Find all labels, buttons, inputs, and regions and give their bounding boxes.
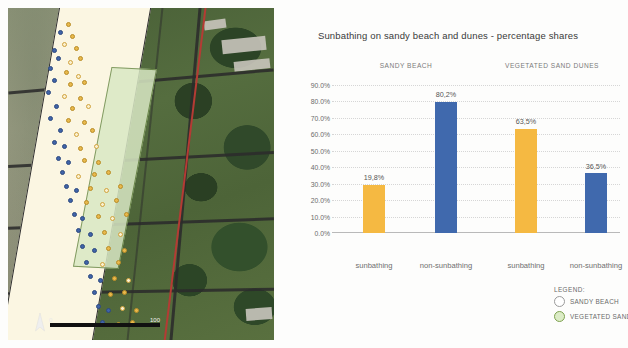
y-tick-label: 40.0%	[311, 164, 330, 171]
bar-sandy-beach-sunbathing[interactable]	[363, 185, 385, 233]
x-tick-label: non-sunbathing	[406, 261, 486, 270]
y-tick-label: 30.0%	[311, 180, 330, 187]
legend-title: LEGEND:	[554, 286, 628, 293]
map-scale-end-label: 100	[150, 317, 160, 323]
legend-item-vegetated-sand-dunes: VEGETATED SAND DUNES	[554, 311, 628, 322]
y-tick-label: 10.0%	[311, 213, 330, 220]
aerial-map-panel: 0 100	[8, 8, 274, 340]
north-arrow-icon	[34, 312, 46, 332]
panel-heading-sandy-beach: SANDY BEACH	[332, 62, 480, 69]
bar-group-sandy-beach-non-sunbathing: 80,2% non-sunbathing	[410, 85, 482, 233]
y-tick-label: 20.0%	[311, 197, 330, 204]
legend-item-sandy-beach: SANDY BEACH	[554, 296, 628, 307]
bar-group-sandy-beach-sunbathing: 19,8% sunbathing	[338, 85, 410, 233]
bar-value-label: 19,8%	[364, 173, 384, 182]
legend-column-areas: SANDY BEACH VEGETATED SAND DUNES	[554, 296, 628, 322]
figure-root: 0 100 Sunbathing on sandy beach and dune…	[0, 0, 628, 348]
legend-item-label: SANDY BEACH	[570, 298, 619, 305]
legend-item-label: VEGETATED SAND DUNES	[570, 313, 628, 320]
map-building-roof	[246, 307, 273, 321]
filled-circle-icon	[554, 311, 565, 322]
chart-title: Sunbathing on sandy beach and dunes - pe…	[276, 30, 620, 41]
chart-panel: Sunbathing on sandy beach and dunes - pe…	[276, 0, 628, 348]
bar-vegetated-dunes-non-sunbathing[interactable]	[585, 173, 607, 233]
bar-group-vegetated-dunes-non-sunbathing: 36,5% non-sunbathing	[560, 85, 628, 233]
hollow-circle-icon	[554, 296, 565, 307]
bar-value-label: 80,2%	[436, 90, 456, 99]
panel-heading-vegetated-sand-dunes: VEGETATED SAND DUNES	[484, 62, 620, 69]
chart-grid-area: 19,8% sunbathing 80,2% non-sunbathing 63…	[332, 85, 620, 233]
y-tick-label: 0.0%	[315, 230, 331, 237]
x-tick-label: sunbathing	[486, 261, 566, 270]
map-scale-start-label: 0	[49, 317, 52, 323]
bar-value-label: 36,5%	[586, 162, 606, 171]
x-tick-label: sunbathing	[334, 261, 414, 270]
x-tick-label: non-sunbathing	[556, 261, 628, 270]
bar-vegetated-dunes-sunbathing[interactable]	[515, 129, 537, 233]
y-tick-label: 50.0%	[311, 147, 330, 154]
y-tick-label: 80.0%	[311, 98, 330, 105]
y-tick-label: 60.0%	[311, 131, 330, 138]
y-tick-label: 70.0%	[311, 114, 330, 121]
bar-group-vegetated-dunes-sunbathing: 63,5% sunbathing	[490, 85, 562, 233]
y-tick-label: 90.0%	[311, 82, 330, 89]
chart-plot-area: SANDY BEACH VEGETATED SAND DUNES 90.0% 8…	[298, 62, 620, 240]
bar-sandy-beach-non-sunbathing[interactable]	[435, 102, 457, 233]
bar-value-label: 63,5%	[516, 117, 536, 126]
map-scale-bar	[50, 323, 160, 327]
y-axis: 90.0% 80.0% 70.0% 60.0% 50.0% 40.0% 30.0…	[298, 85, 332, 233]
legend: LEGEND: SANDY BEACH VEGETATED SAND DUNES	[554, 286, 628, 322]
